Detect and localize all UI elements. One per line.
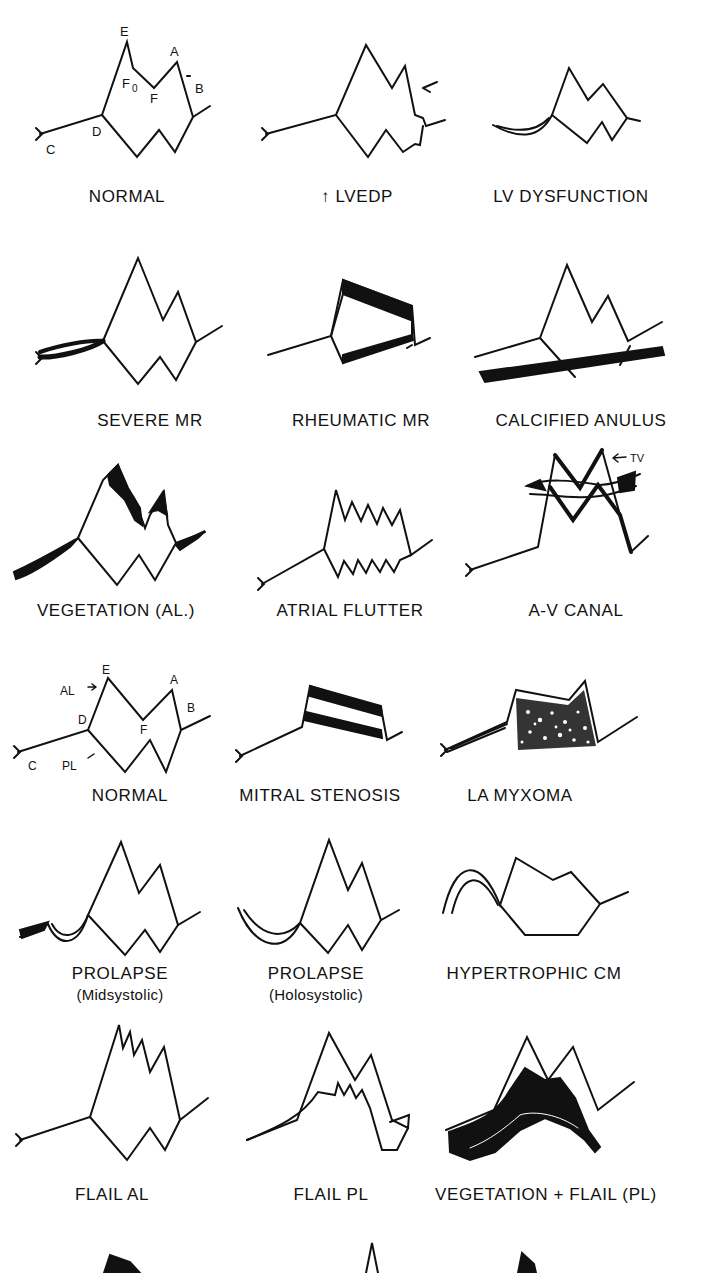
la-myxoma-mass <box>516 690 596 750</box>
panel-prolapse-midsystolic <box>20 842 200 955</box>
panel-rheumatic-mr <box>268 280 430 363</box>
panel-increased-lvedp <box>262 45 445 157</box>
label-flail-pl: FLAIL PL <box>293 1185 368 1205</box>
label-vegetation-flail-pl: VEGETATION + FLAIL (PL) <box>435 1185 657 1205</box>
label-prolapse-midsystolic: PROLAPSE <box>72 964 168 984</box>
panel-atrial-flutter <box>258 490 432 590</box>
point-label-d: D <box>92 124 101 139</box>
point-label-f0: F <box>122 76 130 91</box>
label-a-v-canal: A-V CANAL <box>528 601 623 621</box>
label-lv-dysfunction: LV DYSFUNCTION <box>493 187 648 207</box>
point-label-c: C <box>46 142 55 157</box>
point-label-e-2: E <box>102 663 110 677</box>
point-label-f-2: F <box>140 723 147 737</box>
point-label-a: A <box>170 44 179 59</box>
panel-vegetation-flail-pl <box>446 1037 634 1160</box>
point-label-f: F <box>150 91 158 106</box>
panel-prolapse-holosystolic <box>238 840 399 953</box>
point-label-f0-sub: 0 <box>132 83 138 94</box>
point-label-e: E <box>120 24 129 39</box>
annotation-tv: TV <box>630 452 645 464</box>
panel-row7-partial-2 <box>366 1243 378 1273</box>
label-hypertrophic-cm: HYPERTROPHIC CM <box>447 964 622 984</box>
point-label-pl: PL <box>62 759 77 773</box>
label-rheumatic-mr: RHEUMATIC MR <box>292 411 430 431</box>
point-label-c-2: C <box>28 759 37 773</box>
label-prolapse-holosystolic: PROLAPSE <box>268 964 364 984</box>
label-flail-al: FLAIL AL <box>75 1185 149 1205</box>
label-normal-2: NORMAL <box>92 786 168 806</box>
label-severe-mr: SEVERE MR <box>97 411 203 431</box>
panel-a-v-canal: TV <box>466 450 648 576</box>
label-atrial-flutter: ATRIAL FLUTTER <box>276 601 423 621</box>
panel-row7-partial-3 <box>518 1253 536 1273</box>
panel-normal-1: E A F 0 F B D C <box>36 24 210 157</box>
panel-calcified-anulus <box>475 265 664 382</box>
label-mitral-stenosis: MITRAL STENOSIS <box>239 786 400 806</box>
label-vegetation-al: VEGETATION (AL.) <box>37 601 195 621</box>
panel-mitral-stenosis <box>236 686 402 762</box>
panel-normal-2: E A AL B D F C PL <box>14 663 210 773</box>
panel-lv-dysfunction <box>493 68 640 143</box>
label-la-myxoma: LA MYXOMA <box>467 786 573 806</box>
label-normal-1: NORMAL <box>89 187 165 207</box>
panel-row7-partial-1 <box>104 1255 140 1273</box>
panel-hypertrophic-cm <box>443 858 628 935</box>
point-label-b: B <box>195 81 204 96</box>
echo-mmode-figure: E A F 0 F B D C <box>0 0 703 1273</box>
point-label-b-2: B <box>187 701 195 715</box>
panel-flail-al <box>16 1025 208 1160</box>
sublabel-holosystolic: (Holosystolic) <box>269 986 363 1003</box>
point-label-al: AL <box>60 684 75 698</box>
label-calcified-anulus: CALCIFIED ANULUS <box>495 411 666 431</box>
point-label-d-2: D <box>78 713 87 727</box>
label-increased-lvedp: ↑ LVEDP <box>321 187 393 207</box>
point-label-a-2: A <box>170 673 178 687</box>
panel-severe-mr <box>36 258 222 384</box>
sublabel-midsystolic: (Midsystolic) <box>76 986 163 1003</box>
panel-flail-pl <box>247 1033 409 1150</box>
panel-vegetation-al <box>14 465 205 585</box>
